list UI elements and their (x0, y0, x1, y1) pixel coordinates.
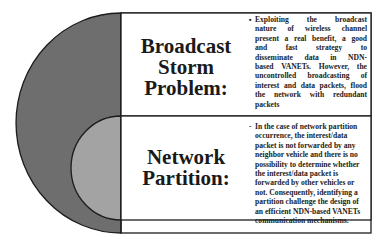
title-line: Broadcast (128, 36, 244, 57)
body-line: disseminate data in NDN- (255, 53, 367, 62)
body-line: present a real benefit, a good (255, 34, 367, 43)
body-line: based VANETs. However, the (255, 62, 367, 71)
section-body-broadcast-storm: ▪ Exploiting the broadcast nature of wir… (255, 15, 367, 109)
section-title-broadcast-storm: Broadcast Storm Problem: (128, 36, 244, 99)
body-line: In the case of network partition (255, 122, 369, 131)
title-line: Partition: (128, 168, 244, 189)
body-line: possibility to determine whether (255, 160, 369, 169)
title-line: Storm (128, 57, 244, 78)
body-line: partition challenge the design of (255, 197, 369, 206)
body-line: and fast strategy to (255, 43, 367, 52)
body-line: uncontrolled broadcasting of (255, 71, 367, 80)
body-line: forwarded by other vehicles or (255, 178, 369, 187)
body-line: nature of wireless channel (255, 24, 367, 33)
section-body-network-partition: - In the case of network partition occur… (255, 122, 369, 225)
bullet-icon: ▪ (249, 15, 252, 24)
body-line: the network with redundant (255, 90, 367, 99)
section-title-network-partition: Network Partition: (128, 147, 244, 189)
bullet-icon: - (249, 122, 252, 131)
body-line: Exploiting the broadcast (255, 15, 367, 24)
body-line: an efficient NDN-based VANETs (255, 207, 369, 216)
body-line: neighbor vehicle and there is no (255, 150, 369, 159)
body-line: occurrence, the interest/data (255, 131, 369, 140)
title-line: Network (128, 147, 244, 168)
body-line: packet is not forwarded by any (255, 141, 369, 150)
title-line: Problem: (128, 78, 244, 99)
body-line: the interest/data packet is (255, 169, 369, 178)
body-line: packets (255, 100, 367, 109)
body-line: communication mechanisms. (255, 216, 369, 225)
body-line: interest and data packets, flood (255, 81, 367, 90)
body-line: not. Consequently, identifying a (255, 188, 369, 197)
